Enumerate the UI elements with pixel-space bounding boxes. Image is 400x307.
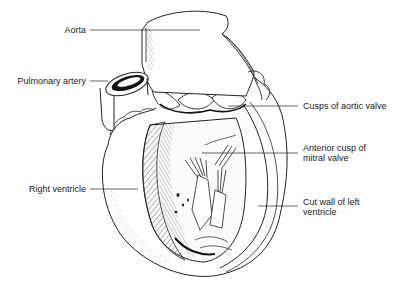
aorta — [142, 11, 254, 96]
label-right-ventricle: Right ventricle — [10, 184, 86, 194]
heart-diagram: Aorta Pulmonary artery Right ventricle C… — [0, 0, 400, 307]
label-anterior-cusp-line2: mitral valve — [303, 153, 349, 163]
label-cut-wall-line1: Cut wall of left — [303, 197, 360, 207]
label-anterior-cusp-line1: Anterior cusp of — [303, 143, 366, 153]
label-cusps-aortic-valve: Cusps of aortic valve — [303, 101, 387, 111]
label-aorta: Aorta — [40, 25, 86, 35]
label-pulmonary-artery: Pulmonary artery — [0, 76, 86, 86]
label-cut-wall-line2: ventricle — [303, 207, 337, 217]
pulmonary-artery — [100, 68, 151, 131]
